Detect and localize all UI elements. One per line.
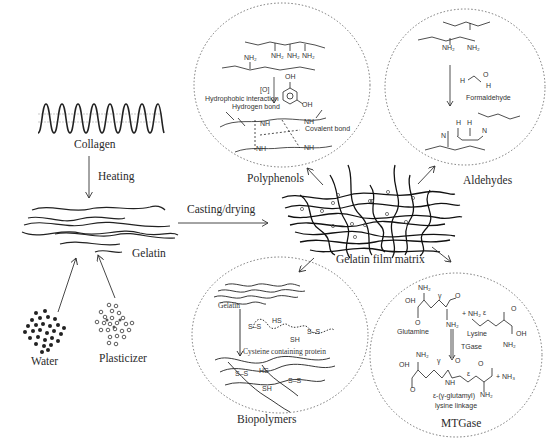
poly-nh2-2: NH₂	[271, 52, 284, 59]
poly-nh-1: NH	[260, 120, 270, 127]
polyphenols-circle	[194, 3, 370, 167]
arrow-to-mtgase	[432, 247, 451, 262]
mtg-nh: NH	[445, 379, 455, 386]
bio-ss-2: S–S	[307, 328, 320, 335]
ald-n-2: N	[482, 127, 487, 134]
aldehydes-circle	[385, 9, 545, 165]
mtg-oh-3: OH	[399, 361, 410, 368]
mtg-lysine: Lysine	[467, 330, 487, 337]
heating-label: Heating	[98, 170, 134, 182]
polyphenols-label: Polyphenols	[247, 172, 304, 184]
ald-formaldehyde: Formaldehyde	[466, 94, 511, 101]
poly-nh2-4: NH₂	[302, 52, 315, 59]
poly-nh-2: NH	[256, 145, 266, 152]
arrow-to-biopolymers	[299, 258, 314, 272]
ald-formula-o: O	[483, 71, 488, 78]
mtg-gamma-1: γ	[438, 292, 442, 299]
mtg-glutamine: Glutamine	[397, 328, 429, 335]
mtg-nh2-2: NH₂	[446, 321, 459, 328]
ald-h-2: H	[467, 119, 472, 126]
water-molecules-icon	[23, 309, 66, 354]
ald-n-1: N	[441, 132, 446, 139]
mtg-o-1: O	[455, 292, 460, 299]
poly-nh-3: NH	[304, 118, 314, 125]
arrow-to-aldehydes	[418, 166, 435, 184]
biopolymers-circle	[192, 257, 368, 413]
mtg-epsilon-1: ε	[483, 309, 486, 316]
ald-nh2-1: NH₂	[442, 44, 455, 51]
gelatin-film-matrix-label: Gelatin film matrix	[336, 253, 425, 265]
water-arrow	[58, 258, 76, 312]
mtg-o-4: O	[455, 357, 460, 364]
poly-nh2-3: NH₂	[287, 52, 300, 59]
bio-ss-3: S–S	[235, 370, 248, 377]
poly-nh-4: NH	[304, 144, 314, 151]
plasticizer-molecules-icon	[95, 303, 134, 346]
plasticizer-arrow	[98, 255, 115, 298]
mtg-linkage-1: ε-(γ-glutamyl)	[433, 392, 475, 399]
bio-cysteine: Cysteine containing protein	[243, 347, 326, 356]
ald-h-1: H	[456, 119, 461, 126]
mtg-linkage-2: lysine linkage	[435, 402, 477, 409]
mtg-nh2-3: NH₂	[503, 341, 516, 348]
poly-oh-1: OH	[285, 73, 296, 80]
collagen-helix-icon	[38, 104, 164, 133]
mtg-o-2: O	[415, 319, 420, 326]
bio-ss-4: S–S	[288, 377, 301, 384]
mtg-plus-nh2: + NH₂	[462, 310, 481, 317]
plasticizer-label: Plasticizer	[99, 352, 147, 364]
mtg-epsilon-2: ε	[467, 370, 470, 377]
gelatin-strands-icon	[22, 206, 178, 252]
mtg-plus-nh3: + NH₃	[496, 373, 515, 380]
poly-oh-2: OH	[302, 101, 313, 108]
collagen-label: Collagen	[74, 138, 116, 150]
gelatin-film-matrix-icon	[282, 165, 462, 258]
mtg-o-6: O	[478, 360, 483, 367]
bio-ss-1: S–S	[248, 323, 261, 330]
poly-covalent-bond: Covalent bond	[305, 125, 350, 132]
poly-nh2-1: NH₂	[244, 54, 257, 61]
bio-hs-1: HS	[272, 317, 282, 324]
gelatin-label: Gelatin	[132, 247, 166, 259]
bio-hs-2: HS	[259, 367, 269, 374]
mtgase-label: MTGase	[441, 417, 481, 429]
ald-formula-h2: H	[486, 82, 491, 89]
mtg-gamma-2: γ	[437, 357, 441, 364]
water-label: Water	[31, 355, 58, 367]
bio-sh-2: SH	[262, 385, 272, 392]
casting-drying-label: Casting/drying	[187, 203, 255, 215]
poly-hydrophobic: Hydrophobic interaction	[205, 95, 279, 102]
poly-hydrogen-bond: Hydrogen bond	[232, 103, 280, 110]
mtg-nh2-1: NH₂	[418, 284, 431, 291]
mtg-nh2-4: NH₂	[416, 351, 429, 358]
arrow-to-polyphenols	[307, 168, 323, 185]
bio-gelatin: Gelatin	[218, 301, 240, 310]
mtg-nh2-5: NH₂	[480, 391, 493, 398]
diagram-canvas	[0, 0, 557, 448]
mtg-o-3: O	[511, 305, 516, 312]
mtg-oh-1: OH	[405, 297, 416, 304]
bio-sh-1: SH	[290, 336, 300, 343]
mtg-o-5: O	[410, 386, 415, 393]
ald-nh2-2: NH₂	[467, 44, 480, 51]
ald-formula-h: H	[460, 77, 465, 84]
mtg-oh-2: OH	[516, 330, 527, 337]
mtg-tgase: TGase	[461, 343, 482, 350]
poly-oxidation: [O]	[260, 86, 269, 93]
biopolymers-label: Biopolymers	[237, 413, 296, 425]
aldehydes-label: Aldehydes	[463, 174, 512, 186]
